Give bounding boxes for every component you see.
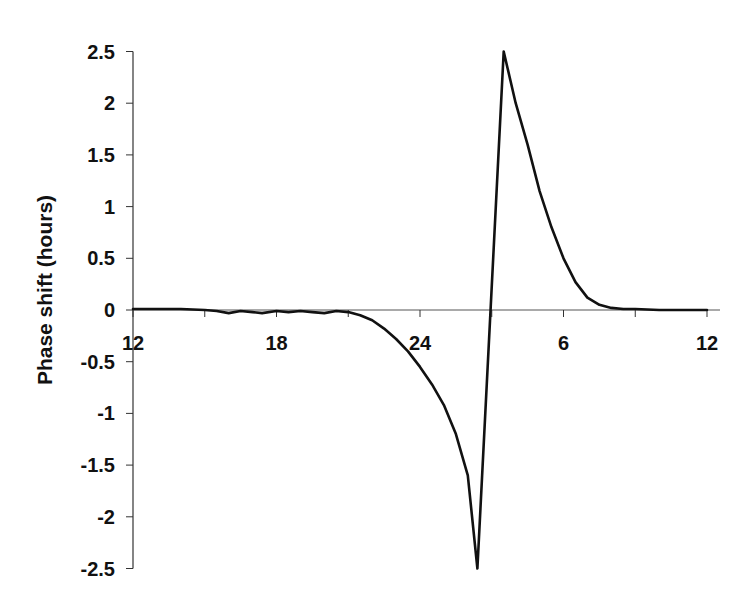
y-axis-title: Phase shift (hours)	[33, 195, 56, 385]
x-axis-tick-labels: 121824612	[122, 332, 718, 354]
x-tick-label: 12	[122, 332, 144, 354]
x-tick-label: 18	[265, 332, 287, 354]
y-tick-label: 1	[104, 196, 115, 218]
y-tick-label: -2	[97, 506, 115, 528]
y-tick-label: -2.5	[81, 558, 115, 580]
y-axis-ticks	[126, 52, 133, 569]
y-tick-label: 1.5	[87, 144, 115, 166]
x-tick-label: 12	[696, 332, 718, 354]
y-tick-label: -1.5	[81, 454, 115, 476]
y-tick-label: -0.5	[81, 351, 115, 373]
y-tick-label: 0	[104, 299, 115, 321]
phase-response-chart: 2.521.510.50-0.5-1-1.5-2-2.5 121824612 P…	[0, 0, 749, 603]
y-tick-label: 2.5	[87, 41, 115, 63]
y-tick-label: -1	[97, 402, 115, 424]
y-tick-label: 2	[104, 92, 115, 114]
x-tick-label: 6	[558, 332, 569, 354]
x-tick-label: 24	[409, 332, 432, 354]
y-tick-label: 0.5	[87, 247, 115, 269]
y-axis-tick-labels: 2.521.510.50-0.5-1-1.5-2-2.5	[81, 41, 115, 580]
